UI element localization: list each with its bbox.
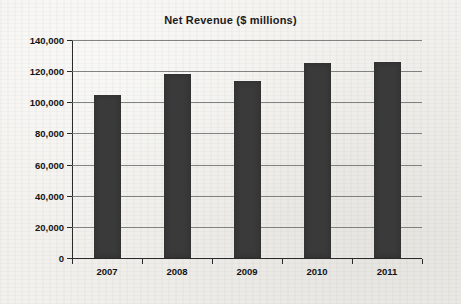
x-axis-tick-mark <box>422 259 423 264</box>
x-axis-tick-mark <box>352 259 353 264</box>
bar-2008 <box>164 74 191 258</box>
y-axis-tick-label: 80,000 <box>2 128 64 139</box>
chart-title: Net Revenue ($ millions) <box>0 14 461 26</box>
y-axis-tick-label: 0 <box>2 253 64 264</box>
x-axis-tick-mark <box>212 259 213 264</box>
x-axis-tick-mark <box>142 259 143 264</box>
y-axis-tick-label: 140,000 <box>2 35 64 46</box>
bar-2010 <box>304 63 331 258</box>
y-axis-label-group: 020,00040,00060,00080,000100,000120,0001… <box>0 0 64 304</box>
y-axis-tick-label: 120,000 <box>2 66 64 77</box>
x-axis-tick-label-2007: 2007 <box>77 266 137 277</box>
x-axis-tick-label-2011: 2011 <box>357 266 417 277</box>
y-axis-tick-label: 40,000 <box>2 190 64 201</box>
plot-area <box>72 40 422 258</box>
x-axis-tick-mark <box>282 259 283 264</box>
bar-2009 <box>234 81 261 258</box>
y-axis-tick-label: 20,000 <box>2 221 64 232</box>
x-axis-tick-label-2008: 2008 <box>147 266 207 277</box>
x-axis-tick-label-2010: 2010 <box>287 266 347 277</box>
axis-baseline <box>72 258 422 259</box>
y-axis-tick-label: 100,000 <box>2 97 64 108</box>
x-axis-tick-label-2009: 2009 <box>217 266 277 277</box>
gridline <box>72 40 422 41</box>
x-axis-origin-tick <box>72 259 73 264</box>
bar-2011 <box>374 62 401 258</box>
y-axis-tick-label: 60,000 <box>2 159 64 170</box>
bar-chart: Net Revenue ($ millions) 020,00040,00060… <box>0 0 461 304</box>
bar-2007 <box>94 95 121 258</box>
gridline <box>72 71 422 72</box>
